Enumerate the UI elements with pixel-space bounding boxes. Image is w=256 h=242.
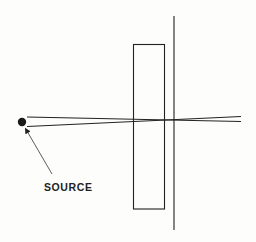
optics-diagram: SOURCE [0, 0, 256, 242]
slab-rectangle [134, 45, 165, 210]
source-label: SOURCE [44, 181, 93, 193]
pointer-arrow [26, 129, 53, 175]
source-dot [18, 118, 26, 126]
